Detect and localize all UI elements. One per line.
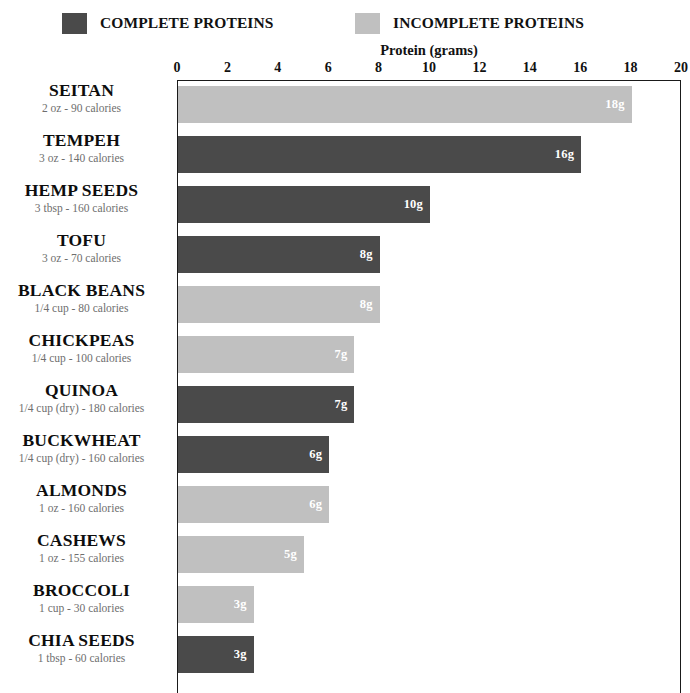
row-serving-text: 1 oz - 160 calories bbox=[0, 501, 163, 516]
chart-row: TEMPEH3 oz - 140 calories16g bbox=[0, 130, 690, 180]
row-food-name: BLACK BEANS bbox=[0, 280, 163, 301]
row-food-name: QUINOA bbox=[0, 380, 163, 401]
x-tick-12: 12 bbox=[472, 60, 486, 76]
bar-complete: 10g bbox=[178, 186, 430, 223]
chart-row: TOFU3 oz - 70 calories8g bbox=[0, 230, 690, 280]
bar-complete: 16g bbox=[178, 136, 581, 173]
bar-rows-container: SEITAN2 oz - 90 calories18gTEMPEH3 oz - … bbox=[0, 80, 690, 693]
bar-value-label: 5g bbox=[284, 547, 304, 562]
row-food-name: CASHEWS bbox=[0, 530, 163, 551]
x-tick-2: 2 bbox=[224, 60, 231, 76]
row-label: CASHEWS1 oz - 155 calories bbox=[0, 530, 163, 566]
row-serving-text: 1 oz - 155 calories bbox=[0, 551, 163, 566]
bar-value-label: 10g bbox=[404, 197, 430, 212]
row-serving-text: 3 oz - 70 calories bbox=[0, 251, 163, 266]
bar-value-label: 3g bbox=[234, 597, 254, 612]
row-label: SEITAN2 oz - 90 calories bbox=[0, 80, 163, 116]
bar-value-label: 6g bbox=[309, 447, 329, 462]
bar-incomplete: 5g bbox=[178, 536, 304, 573]
row-label: BUCKWHEAT1/4 cup (dry) - 160 calories bbox=[0, 430, 163, 466]
chart-row: QUINOA1/4 cup (dry) - 180 calories7g bbox=[0, 380, 690, 430]
row-label: ALMONDS1 oz - 160 calories bbox=[0, 480, 163, 516]
row-label: TEMPEH3 oz - 140 calories bbox=[0, 130, 163, 166]
bar-complete: 6g bbox=[178, 436, 329, 473]
row-label: CHIA SEEDS1 tbsp - 60 calories bbox=[0, 630, 163, 666]
chart-row: CHICKPEAS1/4 cup - 100 calories7g bbox=[0, 330, 690, 380]
bar-value-label: 7g bbox=[334, 397, 354, 412]
bar-value-label: 16g bbox=[555, 147, 581, 162]
bar-value-label: 8g bbox=[360, 247, 380, 262]
bar-complete: 8g bbox=[178, 236, 380, 273]
x-tick-20: 20 bbox=[674, 60, 688, 76]
row-label: TOFU3 oz - 70 calories bbox=[0, 230, 163, 266]
row-label: HEMP SEEDS3 tbsp - 160 calories bbox=[0, 180, 163, 216]
row-food-name: TOFU bbox=[0, 230, 163, 251]
chart-row: CHIA SEEDS1 tbsp - 60 calories3g bbox=[0, 630, 690, 680]
chart-row: SEITAN2 oz - 90 calories18g bbox=[0, 80, 690, 130]
bar-value-label: 18g bbox=[605, 97, 631, 112]
row-serving-text: 1 tbsp - 60 calories bbox=[0, 651, 163, 666]
x-tick-0: 0 bbox=[174, 60, 181, 76]
row-label: CHICKPEAS1/4 cup - 100 calories bbox=[0, 330, 163, 366]
row-food-name: HEMP SEEDS bbox=[0, 180, 163, 201]
chart-row: HEMP SEEDS3 tbsp - 160 calories10g bbox=[0, 180, 690, 230]
bar-incomplete: 3g bbox=[178, 586, 254, 623]
chart-row: BROCCOLI1 cup - 30 calories3g bbox=[0, 580, 690, 630]
x-tick-4: 4 bbox=[274, 60, 281, 76]
x-tick-18: 18 bbox=[624, 60, 638, 76]
bar-complete: 3g bbox=[178, 636, 254, 673]
bar-incomplete: 8g bbox=[178, 286, 380, 323]
row-food-name: CHIA SEEDS bbox=[0, 630, 163, 651]
row-serving-text: 1/4 cup - 80 calories bbox=[0, 301, 163, 316]
x-tick-8: 8 bbox=[375, 60, 382, 76]
chart-row: BLACK BEANS1/4 cup - 80 calories8g bbox=[0, 280, 690, 330]
row-label: BROCCOLI1 cup - 30 calories bbox=[0, 580, 163, 616]
bar-complete: 7g bbox=[178, 386, 354, 423]
bar-value-label: 8g bbox=[360, 297, 380, 312]
row-serving-text: 3 tbsp - 160 calories bbox=[0, 201, 163, 216]
bar-value-label: 6g bbox=[309, 497, 329, 512]
x-tick-14: 14 bbox=[523, 60, 537, 76]
x-tick-6: 6 bbox=[325, 60, 332, 76]
legend-label-complete: COMPLETE PROTEINS bbox=[100, 14, 274, 32]
chart-legend: COMPLETE PROTEINS INCOMPLETE PROTEINS bbox=[0, 10, 690, 36]
legend-entry-incomplete: INCOMPLETE PROTEINS bbox=[355, 10, 584, 36]
row-food-name: CHICKPEAS bbox=[0, 330, 163, 351]
row-food-name: TEMPEH bbox=[0, 130, 163, 151]
row-label: BLACK BEANS1/4 cup - 80 calories bbox=[0, 280, 163, 316]
row-food-name: SEITAN bbox=[0, 80, 163, 101]
x-axis-tick-labels: 02468101214161820 bbox=[0, 60, 690, 80]
row-serving-text: 1/4 cup (dry) - 160 calories bbox=[0, 451, 163, 466]
row-label: QUINOA1/4 cup (dry) - 180 calories bbox=[0, 380, 163, 416]
legend-swatch-incomplete-icon bbox=[355, 13, 380, 34]
bar-incomplete: 6g bbox=[178, 486, 329, 523]
bar-incomplete: 7g bbox=[178, 336, 354, 373]
row-serving-text: 2 oz - 90 calories bbox=[0, 101, 163, 116]
row-serving-text: 1/4 cup (dry) - 180 calories bbox=[0, 401, 163, 416]
legend-entry-complete: COMPLETE PROTEINS bbox=[62, 10, 274, 36]
bar-value-label: 3g bbox=[234, 647, 254, 662]
x-tick-10: 10 bbox=[422, 60, 436, 76]
bar-incomplete: 18g bbox=[178, 86, 632, 123]
legend-label-incomplete: INCOMPLETE PROTEINS bbox=[393, 14, 584, 32]
chart-row: ALMONDS1 oz - 160 calories6g bbox=[0, 480, 690, 530]
x-tick-16: 16 bbox=[573, 60, 587, 76]
row-serving-text: 3 oz - 140 calories bbox=[0, 151, 163, 166]
legend-swatch-complete-icon bbox=[62, 13, 87, 34]
row-food-name: BUCKWHEAT bbox=[0, 430, 163, 451]
row-serving-text: 1 cup - 30 calories bbox=[0, 601, 163, 616]
row-serving-text: 1/4 cup - 100 calories bbox=[0, 351, 163, 366]
chart-row: CASHEWS1 oz - 155 calories5g bbox=[0, 530, 690, 580]
row-food-name: BROCCOLI bbox=[0, 580, 163, 601]
bar-value-label: 7g bbox=[334, 347, 354, 362]
x-axis-title: Protein (grams) bbox=[177, 42, 681, 59]
chart-row: BUCKWHEAT1/4 cup (dry) - 160 calories6g bbox=[0, 430, 690, 480]
row-food-name: ALMONDS bbox=[0, 480, 163, 501]
